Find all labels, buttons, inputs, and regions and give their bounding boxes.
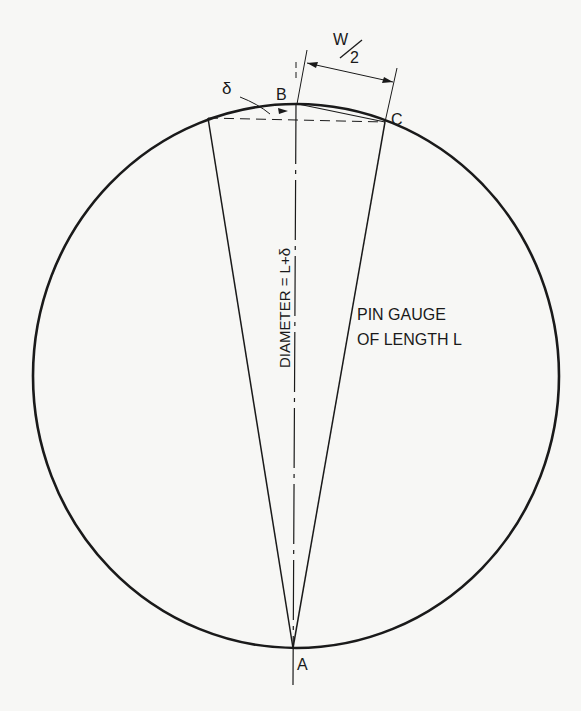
label-pin-gauge-line2: OF LENGTH L (357, 331, 462, 348)
w2-extension-left (297, 50, 307, 104)
diameter-line (293, 104, 296, 685)
pin-gauge-right-line (293, 122, 385, 648)
pin-gauge-diagram: δ B C A W 2 DIAMETER = L+δ PIN GAUGE OF … (0, 0, 581, 711)
label-2: 2 (350, 49, 359, 66)
label-diameter: DIAMETER = L+δ (276, 248, 293, 368)
label-delta: δ (222, 79, 231, 98)
diagram-svg: δ B C A W 2 DIAMETER = L+δ PIN GAUGE OF … (0, 0, 581, 711)
pin-gauge-left-line (208, 118, 293, 648)
label-point-a: A (297, 656, 308, 673)
label-w: W (333, 31, 349, 48)
w2-arrow-right-icon (382, 77, 393, 83)
w2-arrow-left-icon (307, 62, 318, 68)
delta-arrow-icon (278, 108, 288, 114)
label-point-b: B (276, 86, 287, 103)
b-to-c-line (298, 104, 385, 122)
label-point-c: C (391, 111, 403, 128)
label-pin-gauge-line1: PIN GAUGE (357, 306, 446, 323)
